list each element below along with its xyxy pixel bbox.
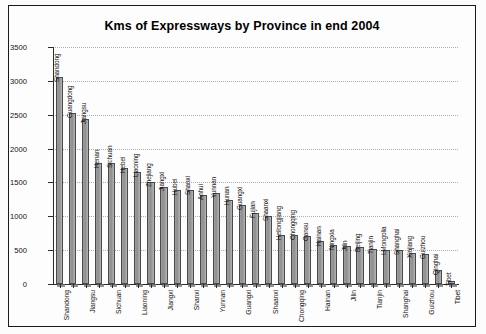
x-axis-tick-mark bbox=[190, 284, 191, 288]
x-axis-tick-mark bbox=[125, 284, 126, 288]
x-axis-tick-mark bbox=[164, 284, 165, 288]
x-axis-tick-mark bbox=[412, 284, 413, 288]
x-axis-tick-label: Yunnan bbox=[219, 290, 226, 312]
x-axis-tick-mark bbox=[347, 284, 348, 288]
y-axis-tick-label: 1500 bbox=[0, 178, 27, 187]
x-axis-tick-mark bbox=[360, 284, 361, 288]
gridline bbox=[53, 149, 458, 150]
x-axis-tick-label: Hainan bbox=[324, 290, 331, 311]
screenshot-root: Kms of Expressways by Province in end 20… bbox=[0, 0, 486, 334]
x-axis-tick-label: Guangxi bbox=[245, 290, 252, 315]
y-axis-tick-label: 3000 bbox=[0, 77, 27, 86]
x-axis-tick-mark bbox=[321, 284, 322, 288]
y-axis-tick-mark bbox=[48, 115, 53, 116]
y-axis-tick-label: 1000 bbox=[0, 212, 27, 221]
y-axis-tick-mark bbox=[48, 81, 53, 82]
x-axis-tick-mark bbox=[269, 284, 270, 288]
x-axis-tick-mark bbox=[308, 284, 309, 288]
x-axis-tick-label: Jiangsu bbox=[89, 290, 96, 313]
y-axis-tick-mark bbox=[48, 284, 53, 285]
x-axis-tick-label: Sichuan bbox=[115, 290, 122, 314]
y-axis-tick-label: 2000 bbox=[0, 145, 27, 154]
x-axis-tick-mark bbox=[334, 284, 335, 288]
y-axis-tick-mark bbox=[48, 149, 53, 150]
x-axis-tick-label: Jilin bbox=[350, 290, 357, 301]
y-axis-tick-label: 3500 bbox=[0, 43, 27, 52]
y-axis-tick-mark bbox=[48, 216, 53, 217]
x-axis-tick-mark bbox=[60, 284, 61, 288]
page-title: Kms of Expressways by Province in end 20… bbox=[9, 19, 475, 33]
x-axis-tick-mark bbox=[242, 284, 243, 288]
y-axis-tick-label: 2500 bbox=[0, 111, 27, 120]
x-axis-tick-mark bbox=[373, 284, 374, 288]
x-axis-tick-mark bbox=[451, 284, 452, 288]
x-axis-tick-label: Shanghai bbox=[402, 290, 409, 318]
x-axis-tick-label: Tibet bbox=[454, 290, 461, 304]
x-axis-tick-mark bbox=[203, 284, 204, 288]
x-axis-tick-label: Shaanxi bbox=[272, 290, 279, 314]
y-axis-tick-label: 0 bbox=[0, 280, 27, 289]
x-axis-tick-label: Liaoning bbox=[141, 290, 148, 315]
x-axis-tick-mark bbox=[399, 284, 400, 288]
x-axis-tick-mark bbox=[151, 284, 152, 288]
x-axis-tick-label: Shandong bbox=[63, 290, 70, 320]
x-axis-tick-label: Shanxi bbox=[193, 290, 200, 310]
gridline bbox=[53, 182, 458, 183]
y-axis-tick-mark bbox=[48, 250, 53, 251]
chart-frame: Kms of Expressways by Province in end 20… bbox=[8, 5, 476, 327]
gridline bbox=[53, 250, 458, 251]
x-axis-tick-mark bbox=[99, 284, 100, 288]
x-axis-tick-label: Tianjin bbox=[376, 290, 383, 309]
x-axis-tick-mark bbox=[282, 284, 283, 288]
plot-area bbox=[53, 47, 458, 284]
x-axis-tick-mark bbox=[138, 284, 139, 288]
y-axis-line bbox=[53, 47, 54, 285]
x-axis-tick-label: Guizhou bbox=[428, 290, 435, 315]
x-axis-tick-mark bbox=[86, 284, 87, 288]
x-axis-tick-mark bbox=[256, 284, 257, 288]
y-axis-tick-label: 500 bbox=[0, 246, 27, 255]
x-axis-tick-mark bbox=[73, 284, 74, 288]
x-axis-tick-label: Jiangxi bbox=[167, 290, 174, 310]
x-axis-tick-mark bbox=[295, 284, 296, 288]
x-axis-tick-mark bbox=[438, 284, 439, 288]
x-axis-tick-mark bbox=[386, 284, 387, 288]
gridline bbox=[53, 47, 458, 48]
gridline bbox=[53, 216, 458, 217]
x-axis-tick-label: Chongqing bbox=[298, 290, 305, 322]
x-axis-tick-mark bbox=[216, 284, 217, 288]
x-axis-tick-mark bbox=[229, 284, 230, 288]
x-axis-tick-mark bbox=[425, 284, 426, 288]
x-axis-tick-mark bbox=[112, 284, 113, 288]
gridline bbox=[53, 115, 458, 116]
y-axis-tick-mark bbox=[48, 182, 53, 183]
y-axis-tick-mark bbox=[48, 47, 53, 48]
gridline bbox=[53, 81, 458, 82]
x-axis-tick-mark bbox=[177, 284, 178, 288]
